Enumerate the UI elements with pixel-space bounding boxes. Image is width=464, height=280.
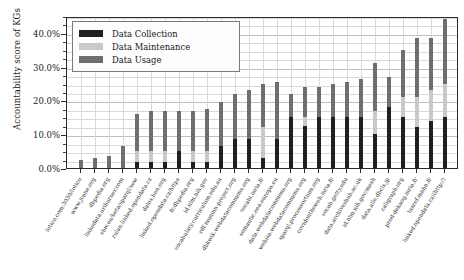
legend-label-data-usage: Data Usage [112,55,161,65]
legend-swatch-data-usage [79,56,103,63]
legend-label-data-maintenance: Data Maintenance [112,42,190,52]
chart-legend: Data Collection Data Maintenance Data Us… [72,21,240,72]
legend-item-data-collection: Data Collection [79,27,233,40]
legend-item-data-usage: Data Usage [79,53,233,66]
chart-figure: Accountability score of KGs 0.0%10.0%20.… [0,0,464,280]
legend-label-data-collection: Data Collection [112,29,178,39]
legend-swatch-data-collection [79,30,103,37]
legend-swatch-data-maintenance [79,43,103,50]
legend-item-data-maintenance: Data Maintenance [79,40,233,53]
